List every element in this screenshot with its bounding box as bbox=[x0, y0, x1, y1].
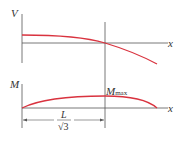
m-max-sub: max bbox=[115, 89, 127, 97]
m-axis-label: M bbox=[10, 79, 19, 90]
m-max-main: M bbox=[106, 85, 115, 97]
shear-moment-diagram bbox=[0, 0, 182, 150]
v-x-label: x bbox=[168, 38, 173, 49]
dimension-arrow-right bbox=[100, 119, 104, 122]
dimension-arrow-left bbox=[23, 119, 27, 122]
dimension-denominator: √3 bbox=[58, 122, 69, 132]
shear-curve bbox=[22, 35, 157, 64]
v-axis-label: V bbox=[11, 8, 18, 19]
m-max-label: Mmax bbox=[106, 86, 127, 97]
m-x-label: x bbox=[168, 103, 173, 114]
dimension-numerator: L bbox=[61, 110, 67, 120]
moment-curve bbox=[22, 96, 157, 108]
